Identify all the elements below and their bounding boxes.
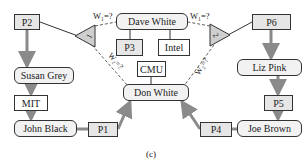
paper-node-p5: P5	[264, 95, 293, 111]
figure-caption: (c)	[146, 149, 156, 159]
weight-w1-left: W₁=?	[93, 11, 113, 21]
weight-w2-right: W₂=?	[193, 56, 210, 77]
entity-resolution-diagram: 1 2 W₁=? W₁=? W₂=? W₂=? P2 P1 P3 P4 P5 P…	[0, 0, 306, 166]
person-node-susan-grey: Susan Grey	[14, 67, 74, 84]
paper-node-p2: P2	[14, 14, 40, 30]
org-node-intel: Intel	[158, 39, 190, 56]
paper-node-p4: P4	[200, 122, 232, 137]
paper-node-p3: P3	[116, 39, 143, 56]
org-node-mit: MIT	[14, 95, 48, 111]
person-node-dave-white: Dave White	[116, 13, 188, 30]
weight-w1-right: W₁=?	[190, 11, 210, 21]
paper-node-p6: P6	[252, 14, 291, 30]
org-node-cmu: CMU	[137, 61, 166, 77]
person-node-john-black: John Black	[14, 120, 77, 137]
person-node-liz-pink: Liz Pink	[237, 59, 302, 76]
paper-node-p1: P1	[88, 122, 118, 137]
person-node-don-white: Don White	[123, 84, 189, 101]
person-node-joe-brown: Joe Brown	[237, 120, 302, 137]
